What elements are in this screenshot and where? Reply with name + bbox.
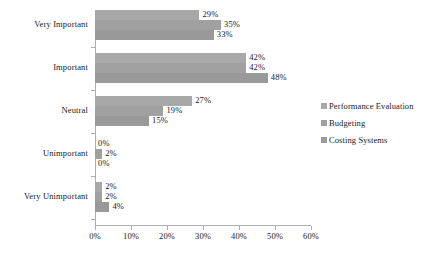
category-label: Very Unimportant bbox=[24, 191, 88, 201]
bar-group: Important42%42%48% bbox=[95, 53, 311, 83]
bar-value-label: 35% bbox=[224, 19, 240, 29]
category-label: Unimportant bbox=[43, 148, 88, 158]
bar-value-label: 2% bbox=[105, 191, 117, 201]
bar-group: Neutral27%19%15% bbox=[95, 96, 311, 126]
bar-group: Very Unimportant2%2%4% bbox=[95, 182, 311, 212]
bar-row: 2% bbox=[95, 149, 311, 159]
bar-row: 0% bbox=[95, 159, 311, 169]
bar bbox=[95, 73, 268, 83]
bar-value-label: 48% bbox=[271, 72, 287, 82]
bar bbox=[95, 202, 109, 212]
bar-group: Very Important29%35%33% bbox=[95, 10, 311, 40]
legend-label: Performance Evaluation bbox=[329, 101, 414, 111]
x-axis-tick bbox=[203, 226, 204, 230]
x-axis-tick-label: 60% bbox=[303, 231, 319, 241]
x-axis-tick bbox=[131, 226, 132, 230]
x-axis-tick-label: 50% bbox=[267, 231, 283, 241]
bar-row: 33% bbox=[95, 30, 311, 40]
bar-value-label: 42% bbox=[249, 62, 265, 72]
bar-row: 42% bbox=[95, 53, 311, 63]
x-axis-tick-label: 40% bbox=[231, 231, 247, 241]
bar bbox=[95, 182, 102, 192]
legend-item[interactable]: Costing Systems bbox=[321, 133, 414, 146]
bar bbox=[95, 192, 102, 202]
bar-chart: 0%10%20%30%40%50%60% Very Important29%35… bbox=[0, 0, 443, 253]
x-axis-tick-label: 0% bbox=[89, 231, 101, 241]
bar bbox=[95, 10, 199, 20]
bar bbox=[95, 63, 246, 73]
bar-value-label: 0% bbox=[98, 158, 110, 168]
bar-value-label: 2% bbox=[105, 148, 117, 158]
x-axis-tick bbox=[167, 226, 168, 230]
bar-row: 29% bbox=[95, 10, 311, 20]
legend-label: Costing Systems bbox=[329, 135, 387, 145]
bar-value-label: 19% bbox=[166, 105, 182, 115]
bar-row: 2% bbox=[95, 182, 311, 192]
bar-value-label: 4% bbox=[112, 201, 124, 211]
x-axis-tick bbox=[275, 226, 276, 230]
bar bbox=[95, 30, 214, 40]
bar-value-label: 29% bbox=[202, 9, 218, 19]
x-axis-tick bbox=[95, 226, 96, 230]
plot-area: Very Important29%35%33%Important42%42%48… bbox=[95, 10, 311, 225]
chart-legend: Performance EvaluationBudgetingCosting S… bbox=[321, 99, 414, 150]
x-axis-tick bbox=[239, 226, 240, 230]
bar-value-label: 15% bbox=[152, 115, 168, 125]
bar-row: 15% bbox=[95, 116, 311, 126]
category-label: Very Important bbox=[34, 19, 88, 29]
bar-value-label: 27% bbox=[195, 95, 211, 105]
bar bbox=[95, 20, 221, 30]
bar-row: 27% bbox=[95, 96, 311, 106]
bar-group: Unimportant0%2%0% bbox=[95, 139, 311, 169]
bar bbox=[95, 53, 246, 63]
bar-row: 35% bbox=[95, 20, 311, 30]
bar bbox=[95, 116, 149, 126]
bar-row: 19% bbox=[95, 106, 311, 116]
legend-label: Budgeting bbox=[329, 118, 365, 128]
bar-row: 4% bbox=[95, 202, 311, 212]
legend-item[interactable]: Performance Evaluation bbox=[321, 99, 414, 112]
legend-swatch-icon bbox=[321, 120, 327, 126]
bar-value-label: 42% bbox=[249, 52, 265, 62]
bar-value-label: 33% bbox=[217, 29, 233, 39]
legend-swatch-icon bbox=[321, 103, 327, 109]
bar-row: 48% bbox=[95, 73, 311, 83]
x-axis-tick-label: 30% bbox=[195, 231, 211, 241]
x-axis-tick-label: 20% bbox=[159, 231, 175, 241]
legend-item[interactable]: Budgeting bbox=[321, 116, 414, 129]
category-label: Important bbox=[53, 62, 88, 72]
bar-value-label: 2% bbox=[105, 181, 117, 191]
bar-row: 2% bbox=[95, 192, 311, 202]
bar-value-label: 0% bbox=[98, 138, 110, 148]
bar-row: 0% bbox=[95, 139, 311, 149]
legend-swatch-icon bbox=[321, 137, 327, 143]
category-label: Neutral bbox=[61, 105, 88, 115]
x-axis-tick-label: 10% bbox=[123, 231, 139, 241]
x-axis-tick bbox=[311, 226, 312, 230]
